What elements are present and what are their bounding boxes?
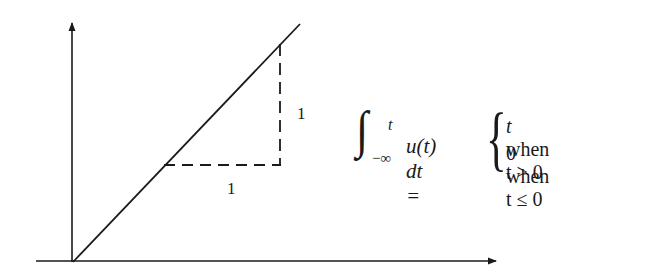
rise-label: 1 [297, 105, 306, 122]
lower-limit: −∞ [372, 150, 391, 167]
case-positive-value: t [506, 115, 512, 137]
ramp-diagram: 1 1 ∫ t −∞ u(t) dt = { t when t > 0 0 wh… [0, 0, 647, 278]
run-label: 1 [227, 180, 236, 197]
case-nonpositive-value: 0 [506, 142, 516, 164]
integral-sign: ∫ [356, 104, 368, 156]
case-nonpositive: 0 when t ≤ 0 [506, 142, 549, 211]
ramp-line [73, 24, 300, 262]
integrand: u(t) dt = [406, 134, 436, 209]
upper-limit: t [388, 116, 392, 134]
ramp-plot [0, 0, 647, 278]
case-nonpositive-condition: when t ≤ 0 [506, 165, 549, 210]
cases-brace: { [486, 102, 507, 174]
